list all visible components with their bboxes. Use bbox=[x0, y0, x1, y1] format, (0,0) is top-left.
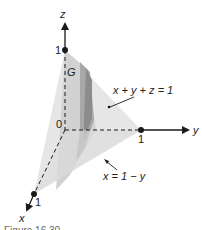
x-axis-label: x bbox=[18, 212, 25, 224]
plane-equation-label: x + y + z = 1 bbox=[112, 84, 173, 96]
tetrahedron-figure: z y x 1 1 1 0 G x + y + z = 1 x = 1 − y … bbox=[0, 0, 202, 230]
origin-label: 0 bbox=[56, 118, 62, 130]
region-g-label: G bbox=[67, 66, 76, 78]
z-tick-1: 1 bbox=[55, 44, 61, 56]
x-tick-1: 1 bbox=[35, 196, 41, 208]
plane-equation-leader-dot bbox=[108, 106, 111, 109]
y-tick-1: 1 bbox=[138, 133, 144, 145]
side-plane-equation-label: x = 1 − y bbox=[102, 170, 147, 182]
figure-caption: Figure 16.30 bbox=[4, 225, 61, 230]
z-axis-label: z bbox=[59, 8, 66, 20]
z-intercept-point bbox=[62, 47, 68, 53]
y-axis-label: y bbox=[192, 124, 200, 136]
